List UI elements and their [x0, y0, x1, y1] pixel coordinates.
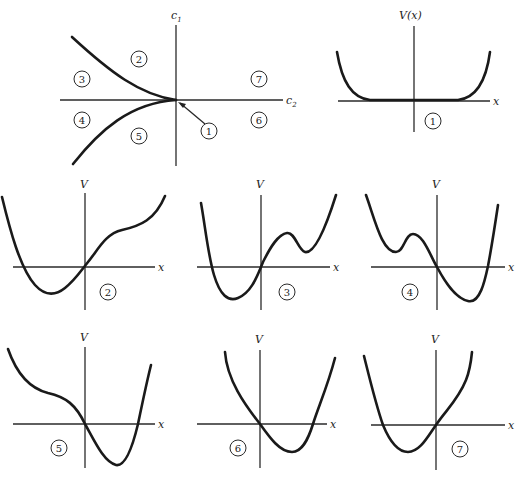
v-axis-label: V: [80, 178, 89, 191]
potential-plot-2: V x 2: [2, 178, 165, 310]
x-axis-label: x: [508, 419, 515, 432]
plot-badge: 1: [430, 116, 436, 127]
v-axis-label: V: [431, 333, 440, 346]
upper-bifurcation-curve: [72, 37, 176, 100]
v-axis-label: V: [80, 331, 89, 344]
v-axis-label: V: [256, 178, 265, 191]
svg-text:1: 1: [206, 126, 212, 137]
svg-text:2: 2: [136, 54, 142, 65]
potential-plot-3: V x 3: [197, 178, 340, 310]
x-axis-label: x: [333, 261, 340, 274]
potential-plot-4: V x 4: [366, 178, 515, 310]
svg-text:7: 7: [256, 74, 262, 85]
v-axis-label: V(x): [399, 9, 422, 22]
cusp-catastrophe-diagram: c1 c2 2 3 4 5 6 7: [0, 0, 517, 484]
svg-text:6: 6: [256, 115, 262, 126]
potential-curve: [2, 196, 165, 294]
region-badge-5: 5: [131, 128, 147, 144]
potential-plot-6: V x 6: [197, 333, 337, 468]
plot-badge: 2: [105, 287, 111, 298]
region-badge-7: 7: [251, 71, 267, 87]
region-badge-6: 6: [251, 112, 267, 128]
svg-text:3: 3: [79, 74, 85, 85]
region-badge-3: 3: [74, 71, 90, 87]
plot-badge: 5: [56, 443, 62, 454]
region-badge-2: 2: [131, 51, 147, 67]
c2-axis-label: c2: [286, 94, 297, 109]
lower-bifurcation-curve: [73, 100, 176, 164]
v-axis-label: V: [432, 178, 441, 191]
potential-curve: [8, 349, 151, 465]
x-axis-label: x: [330, 418, 337, 431]
plot-badge: 7: [457, 444, 463, 455]
potential-curve: [366, 195, 498, 301]
potential-plot-1: V(x) x 1: [337, 9, 500, 132]
region-badge-4: 4: [74, 112, 90, 128]
cusp-point-pointer: 1: [178, 102, 217, 139]
x-axis-label: x: [508, 261, 515, 274]
plot-badge: 6: [235, 443, 241, 454]
potential-curve: [201, 195, 336, 299]
svg-text:4: 4: [79, 115, 85, 126]
c1-axis-label: c1: [171, 9, 182, 24]
potential-plot-7: V x 7: [364, 333, 515, 470]
potential-plot-5: V x 5: [8, 331, 165, 468]
potential-curve: [225, 352, 335, 452]
plot-badge: 4: [407, 287, 413, 298]
v-axis-label: V: [255, 333, 264, 346]
svg-text:5: 5: [136, 131, 142, 142]
control-plane: c1 c2 2 3 4 5 6 7: [60, 9, 297, 166]
plot-badge: 3: [284, 287, 290, 298]
x-axis-label: x: [158, 418, 165, 431]
potential-curve: [364, 352, 472, 452]
x-axis-label: x: [493, 95, 500, 108]
x-axis-label: x: [158, 261, 165, 274]
